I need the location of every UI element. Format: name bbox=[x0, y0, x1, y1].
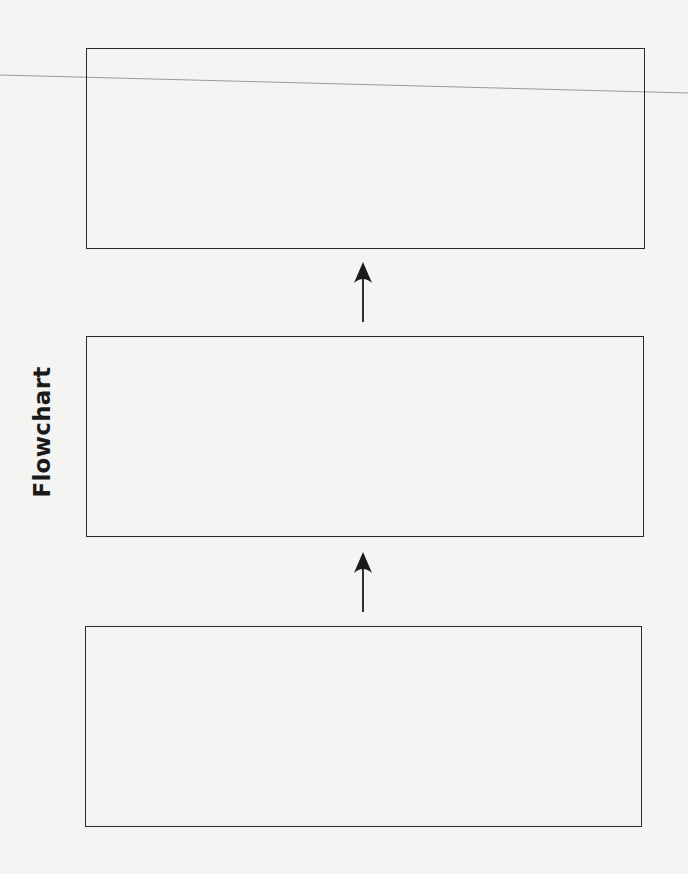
flowchart-box-middle bbox=[86, 336, 644, 537]
arrow-up-icon bbox=[348, 258, 378, 328]
flowchart-box-top bbox=[86, 48, 645, 249]
flowchart-box-bottom bbox=[85, 626, 642, 827]
arrow-up-icon bbox=[348, 548, 378, 618]
flowchart-title: Flowchart bbox=[29, 366, 55, 497]
